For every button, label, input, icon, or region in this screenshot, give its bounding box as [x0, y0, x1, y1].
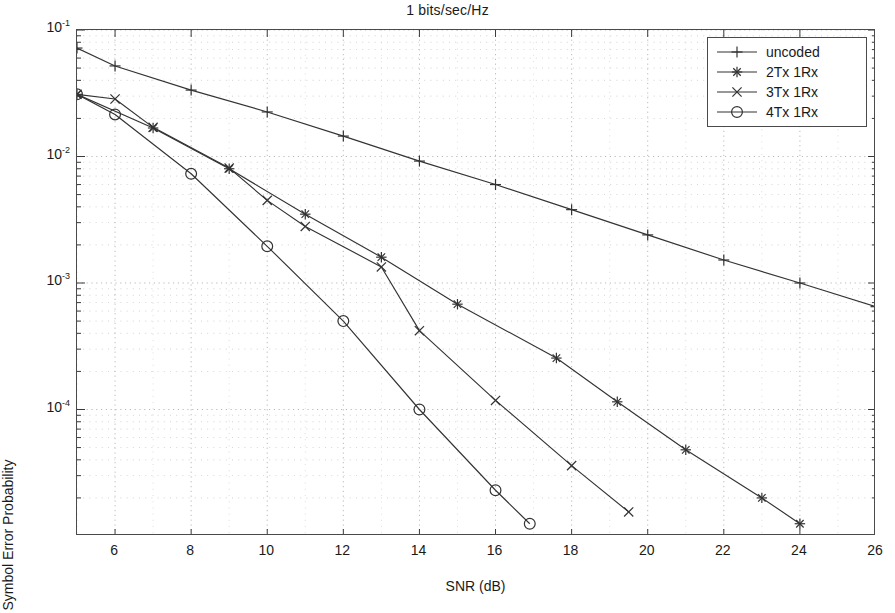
series-2tx-1rx [77, 89, 805, 529]
legend-marker-cross-icon [714, 83, 760, 101]
y-tick-label: 10-1 [2, 19, 70, 35]
x-tick-label: 18 [551, 542, 591, 558]
y-tick-label: 10-2 [2, 146, 70, 162]
x-axis-label: SNR (dB) [76, 578, 875, 594]
x-tick-label: 22 [703, 542, 743, 558]
x-tick-label: 10 [246, 542, 286, 558]
legend-marker-plus-icon [714, 43, 760, 61]
series-line [77, 94, 800, 523]
legend-label: uncoded [760, 44, 820, 60]
x-tick-label: 12 [322, 542, 362, 558]
x-tick-label: 16 [475, 542, 515, 558]
legend-item[interactable]: 4Tx 1Rx [708, 102, 866, 122]
legend-item[interactable]: uncoded [708, 42, 866, 62]
legend-label: 2Tx 1Rx [760, 64, 818, 80]
x-tick-label: 14 [398, 542, 438, 558]
chart-title: 1 bits/sec/Hz [0, 2, 895, 18]
legend-marker-star-icon [714, 63, 760, 81]
y-tick-label: 10-4 [2, 399, 70, 415]
y-tick-label: 10-3 [2, 272, 70, 288]
legend-label: 4Tx 1Rx [760, 104, 818, 120]
series-3tx-1rx [77, 90, 633, 517]
series-line [77, 94, 629, 512]
series-line [77, 94, 530, 523]
legend: uncoded2Tx 1Rx3Tx 1Rx4Tx 1Rx [707, 37, 867, 127]
legend-marker-circle-icon [714, 103, 760, 121]
legend-item[interactable]: 2Tx 1Rx [708, 62, 866, 82]
figure-canvas: 1 bits/sec/Hz Symbol Error Probability 1… [0, 0, 895, 613]
x-tick-label: 24 [779, 542, 819, 558]
legend-label: 3Tx 1Rx [760, 84, 818, 100]
legend-item[interactable]: 3Tx 1Rx [708, 82, 866, 102]
y-axis-tick-labels: 10-110-210-310-4 [0, 0, 70, 613]
x-tick-label: 20 [627, 542, 667, 558]
x-tick-label: 8 [170, 542, 210, 558]
x-tick-label: 26 [855, 542, 895, 558]
x-tick-label: 6 [94, 542, 134, 558]
